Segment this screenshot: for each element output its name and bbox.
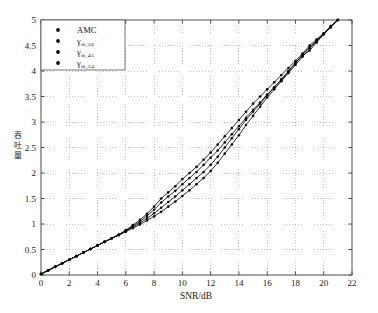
- y-tick-labels: 00.511.522.533.544.55: [25, 15, 37, 280]
- x-tick-label: 0: [39, 278, 44, 288]
- x-tick-label: 4: [95, 278, 100, 288]
- x-tick-label: 16: [263, 278, 273, 288]
- y-tick-label: 4.5: [25, 41, 37, 51]
- x-tick-label: 22: [348, 278, 357, 288]
- x-tick-label: 18: [291, 278, 301, 288]
- y-tick-label: 2.5: [25, 143, 37, 153]
- y-tick-label: 3: [32, 117, 37, 127]
- legend-marker-icon: [56, 61, 60, 65]
- y-axis-title: 吞吐量: [14, 131, 22, 160]
- y-tick-label: 1: [32, 219, 37, 229]
- y-axis-title-char: 吞: [14, 131, 22, 140]
- x-tick-label: 2: [67, 278, 72, 288]
- x-tick-label: 14: [234, 278, 244, 288]
- y-tick-label: 2: [32, 168, 37, 178]
- y-tick-label: 3.5: [25, 92, 37, 102]
- y-axis-title-char: 量: [14, 151, 22, 160]
- y-tick-label: 0.5: [25, 245, 37, 255]
- x-tick-label: 8: [152, 278, 157, 288]
- y-tick-label: 0: [32, 270, 37, 280]
- x-tick-label: 10: [178, 278, 188, 288]
- x-tick-labels: 0246810121416182022: [39, 278, 357, 288]
- y-tick-label: 1.5: [25, 194, 37, 204]
- chart-figure: 0246810121416182022 00.511.522.533.544.5…: [0, 0, 378, 313]
- y-axis-title-char: 吐: [14, 141, 22, 150]
- y-tick-label: 5: [32, 15, 37, 25]
- x-axis-title: SNR/dB: [180, 291, 212, 301]
- legend-marker-icon: [56, 39, 60, 43]
- legend: AMCγth_5/6γth_4/5γth_3/4: [41, 20, 125, 70]
- x-tick-label: 20: [319, 278, 329, 288]
- throughput-vs-snr-chart: 0246810121416182022 00.511.522.533.544.5…: [0, 0, 378, 313]
- x-tick-label: 6: [124, 278, 129, 288]
- x-tick-label: 12: [206, 278, 215, 288]
- legend-item-label: AMC: [77, 25, 97, 35]
- legend-marker-icon: [56, 28, 60, 32]
- legend-marker-icon: [56, 50, 60, 54]
- y-tick-label: 4: [32, 66, 37, 76]
